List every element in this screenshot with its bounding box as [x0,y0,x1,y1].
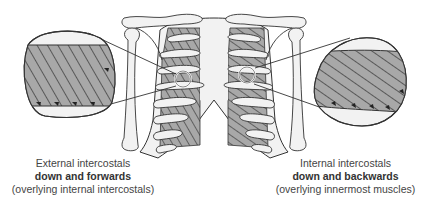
right-magnifier [300,38,420,126]
internal-intercostals-caption: Internal intercostals down and backwards… [268,157,423,196]
right-humerus [289,28,306,151]
caption-direction: down and forwards [8,170,158,183]
caption-direction: down and backwards [268,170,423,183]
caption-note: (overlying innermost muscles) [268,183,423,196]
left-humerus [122,28,139,151]
caption-note: (overlying internal intercostals) [8,183,158,196]
caption-title: Internal intercostals [268,157,423,170]
external-intercostal-muscle [10,45,120,106]
caption-title: External intercostals [8,157,158,170]
external-intercostals-caption: External intercostals down and forwards … [8,157,158,196]
sternum [200,24,228,102]
ribcage [122,14,306,158]
left-magnifier [10,31,120,117]
